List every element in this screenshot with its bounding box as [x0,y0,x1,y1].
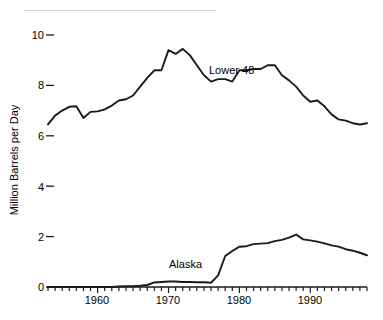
chart-figure: Million Barrels per Day 10 8 6 4 2 0 196… [0,0,383,320]
y-tick-label-8: 8 [22,79,44,91]
top-rule [24,10,216,11]
x-tick-label-1970: 1970 [148,294,188,306]
line-series-lower-48 [48,49,367,125]
x-tick-label-1990: 1990 [290,294,330,306]
series-label-lower48: Lower 48 [209,64,254,76]
x-axis [46,35,367,293]
y-axis-title: Million Barrels per Day [8,105,20,216]
plot-area [0,0,383,320]
x-tick-label-1980: 1980 [219,294,259,306]
y-tick-label-6: 6 [22,130,44,142]
series-label-alaska: Alaska [169,258,202,270]
y-tick-label-10: 10 [22,29,44,41]
line-series-alaska [48,235,367,287]
y-tick-label-4: 4 [22,181,44,193]
x-tick-label-1960: 1960 [77,294,117,306]
y-tick-label-2: 2 [22,231,44,243]
y-tick-label-0: 0 [22,281,44,293]
